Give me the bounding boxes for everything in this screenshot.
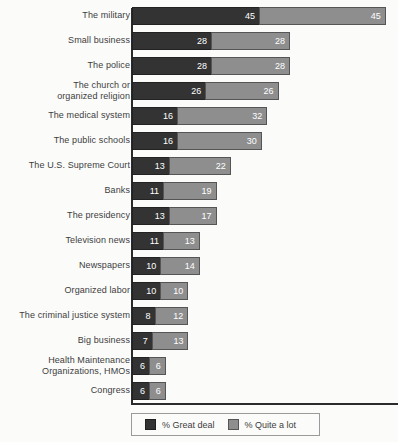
bar-row-label-line2: organized religion: [4, 91, 130, 102]
bar-value-great-deal: 10: [146, 262, 160, 271]
bar-value-great-deal: 10: [146, 287, 160, 296]
bar-value-quite-a-lot: 12: [173, 312, 187, 321]
bar-value-great-deal: 6: [140, 387, 149, 396]
bar-segment-great-deal: 16: [132, 107, 177, 125]
stacked-bar: 1322: [132, 157, 231, 175]
bar-row: The U.S. Supreme Court1322: [0, 154, 398, 179]
bar-row: Congress66: [0, 379, 398, 404]
bar-value-great-deal: 28: [197, 37, 211, 46]
bar-segment-great-deal: 6: [132, 382, 149, 400]
bar-segment-great-deal: 6: [132, 357, 149, 375]
bar-value-quite-a-lot: 10: [173, 287, 187, 296]
bar-segment-quite-a-lot: 14: [160, 257, 199, 275]
bar-row-label: Congress: [4, 385, 130, 396]
bar-segment-quite-a-lot: 17: [169, 207, 217, 225]
bar-row-label-line1: Health Maintenance: [4, 355, 130, 366]
bar-segment-quite-a-lot: 28: [211, 57, 290, 75]
bar-row: Small business2828: [0, 29, 398, 54]
stacked-bar: 713: [132, 332, 188, 350]
bar-value-great-deal: 11: [150, 237, 163, 246]
bar-row-label: The U.S. Supreme Court: [4, 160, 130, 171]
bar-segment-great-deal: 13: [132, 207, 169, 225]
stacked-bar: 1014: [132, 257, 200, 275]
stacked-bar: 1632: [132, 107, 267, 125]
bar-row: Organized labor1010: [0, 279, 398, 304]
legend-label-quite-a-lot: % Quite a lot: [245, 420, 297, 430]
bar-row-label-line1: The church or: [4, 80, 130, 91]
bar-row-label: Banks: [4, 185, 130, 196]
bar-value-great-deal: 16: [163, 112, 177, 121]
bar-row: The medical system1632: [0, 104, 398, 129]
bar-segment-quite-a-lot: 6: [149, 357, 166, 375]
stacked-bar: 1119: [132, 182, 217, 200]
bar-value-great-deal: 6: [140, 362, 149, 371]
bar-segment-quite-a-lot: 30: [177, 132, 262, 150]
stacked-bar: 1317: [132, 207, 217, 225]
bar-segment-great-deal: 16: [132, 132, 177, 150]
bar-segment-quite-a-lot: 28: [211, 32, 290, 50]
bar-row-label: The police: [4, 60, 130, 71]
bar-segment-quite-a-lot: 22: [169, 157, 231, 175]
bar-row: Big business713: [0, 329, 398, 354]
stacked-bar: 2828: [132, 57, 290, 75]
bar-value-quite-a-lot: 6: [156, 362, 165, 371]
stacked-bar: 812: [132, 307, 188, 325]
bar-segment-quite-a-lot: 32: [177, 107, 267, 125]
stacked-bar: 1630: [132, 132, 262, 150]
bar-row: The presidency1317: [0, 204, 398, 229]
bar-segment-quite-a-lot: 13: [163, 232, 200, 250]
bar-row-label: Small business: [4, 35, 130, 46]
bar-segment-great-deal: 8: [132, 307, 155, 325]
legend-label-great-deal: % Great deal: [162, 420, 215, 430]
bar-value-quite-a-lot: 28: [275, 37, 289, 46]
bar-value-great-deal: 16: [163, 137, 177, 146]
bar-row: The military4545: [0, 4, 398, 29]
bar-segment-great-deal: 11: [132, 182, 163, 200]
bar-row-label: Health MaintenanceOrganizations, HMOs: [4, 355, 130, 376]
bar-row: The public schools1630: [0, 129, 398, 154]
bar-segment-great-deal: 7: [132, 332, 152, 350]
bar-value-great-deal: 26: [191, 87, 205, 96]
bar-segment-great-deal: 13: [132, 157, 169, 175]
bar-value-quite-a-lot: 17: [202, 212, 216, 221]
bar-row-label: Big business: [4, 335, 130, 346]
legend-item-quite-a-lot: % Quite a lot: [228, 419, 297, 430]
bar-row: Newspapers1014: [0, 254, 398, 279]
bar-row-label: The public schools: [4, 135, 130, 146]
bar-row-label: The criminal justice system: [4, 310, 130, 321]
bar-value-quite-a-lot: 14: [185, 262, 199, 271]
bar-row-label: The presidency: [4, 210, 130, 221]
bar-row: The police2828: [0, 54, 398, 79]
bar-segment-quite-a-lot: 10: [160, 282, 188, 300]
bar-value-great-deal: 13: [155, 162, 169, 171]
legend-item-great-deal: % Great deal: [145, 419, 215, 430]
bar-row-label: The military: [4, 10, 130, 21]
bar-row-label: The medical system: [4, 110, 130, 121]
bar-row: Banks1119: [0, 179, 398, 204]
bar-value-quite-a-lot: 28: [275, 62, 289, 71]
bar-row-label-line2: Organizations, HMOs: [4, 366, 130, 377]
bar-value-quite-a-lot: 45: [371, 12, 385, 21]
bar-segment-quite-a-lot: 13: [152, 332, 189, 350]
stacked-bar: 66: [132, 382, 166, 400]
bar-row-label: Television news: [4, 235, 130, 246]
bar-segment-quite-a-lot: 6: [149, 382, 166, 400]
stacked-bar: 2828: [132, 32, 290, 50]
bar-value-quite-a-lot: 30: [247, 137, 261, 146]
bar-value-great-deal: 45: [245, 12, 259, 21]
bar-row-label: Newspapers: [4, 260, 130, 271]
chart-legend: % Great deal % Quite a lot: [131, 413, 320, 436]
bar-row: The criminal justice system812: [0, 304, 398, 329]
bar-row-label: Organized labor: [4, 285, 130, 296]
bar-segment-quite-a-lot: 45: [259, 7, 386, 25]
bar-row-label: The church ororganized religion: [4, 80, 130, 101]
bar-value-great-deal: 7: [143, 337, 152, 346]
bar-segment-great-deal: 11: [132, 232, 163, 250]
bar-segment-quite-a-lot: 26: [205, 82, 278, 100]
bar-segment-great-deal: 26: [132, 82, 205, 100]
bar-value-quite-a-lot: 22: [216, 162, 230, 171]
bar-value-quite-a-lot: 19: [202, 187, 216, 196]
bar-value-quite-a-lot: 13: [173, 337, 187, 346]
legend-swatch-icon-quite-a-lot: [228, 419, 239, 430]
plot-area: The military4545Small business2828The po…: [0, 4, 398, 402]
